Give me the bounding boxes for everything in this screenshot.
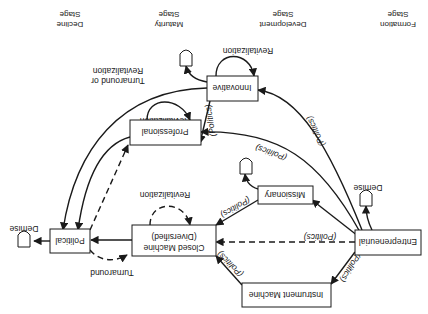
loop-innovative-revitalization <box>216 57 254 77</box>
stage-formation: Formation Stage <box>380 10 416 29</box>
label-revitalization: Revitalization <box>222 46 273 56</box>
tombstone-icon <box>240 158 252 174</box>
label-politics: (Politics) <box>304 232 337 242</box>
stage-maturity: Maturity Stage <box>155 10 183 29</box>
edge-political-turnaround <box>90 250 127 260</box>
svg-text:Instrument Machine: Instrument Machine <box>248 290 323 300</box>
edge-innovative-political <box>63 88 207 230</box>
edge-professional-political <box>78 137 130 230</box>
node-political: Political <box>50 229 90 253</box>
node-entrepreneurial: Entrepreneurial <box>355 230 421 255</box>
node-closed-machine: Closed Machine (Diversified) <box>132 225 216 256</box>
label-politics: (Politics) <box>219 195 252 220</box>
stage-decline: Decline Stage <box>56 10 83 29</box>
svg-text:Stage: Stage <box>158 10 179 19</box>
svg-text:Stage: Stage <box>387 10 408 19</box>
label-turnaround-or: Turnaround or <box>91 76 145 86</box>
svg-text:Formation: Formation <box>380 20 416 29</box>
edge-political-professional <box>90 145 128 230</box>
svg-text:Innovative: Innovative <box>212 83 251 93</box>
tombstone-icon <box>18 231 30 247</box>
edge-entrepreneurial-demise <box>366 206 372 230</box>
node-professional: Professional <box>130 120 201 145</box>
loop-closed-machine-revitalization <box>150 206 190 225</box>
label-politics: (Politics) <box>304 114 327 148</box>
edge-innovative-demise <box>186 66 207 82</box>
tombstone-icon <box>180 50 192 66</box>
label-politics: (Politics) <box>254 142 288 163</box>
svg-text:Stage: Stage <box>59 10 80 19</box>
node-innovative: Innovative <box>207 76 258 101</box>
svg-text:Professional: Professional <box>142 127 189 137</box>
label-politics: (Politics) <box>215 249 245 279</box>
label-turnaround: Turnaround <box>90 268 134 278</box>
svg-text:Stage: Stage <box>272 10 293 19</box>
node-missionary: Missionary <box>258 186 313 204</box>
svg-text:Development: Development <box>259 20 307 29</box>
svg-text:Political: Political <box>55 236 84 246</box>
svg-text:Entrepreneurial: Entrepreneurial <box>359 237 417 247</box>
organization-life-cycle-diagram: Formation Stage Development Stage Maturi… <box>0 0 428 314</box>
svg-text:(Diversified): (Diversified) <box>151 232 197 242</box>
label-politics: (Politics) <box>338 251 363 284</box>
tombstone-icon <box>360 190 372 206</box>
stage-development: Development Stage <box>259 10 307 29</box>
label-revitalization: Revitalization <box>139 190 190 200</box>
label-revitalization: Revitalization <box>92 66 143 76</box>
svg-text:Maturity: Maturity <box>155 20 183 29</box>
node-instrument-machine: Instrument Machine <box>242 283 331 307</box>
svg-text:Decline: Decline <box>56 20 83 29</box>
svg-text:Missionary: Missionary <box>264 190 305 200</box>
svg-text:Closed Machine: Closed Machine <box>143 243 204 253</box>
